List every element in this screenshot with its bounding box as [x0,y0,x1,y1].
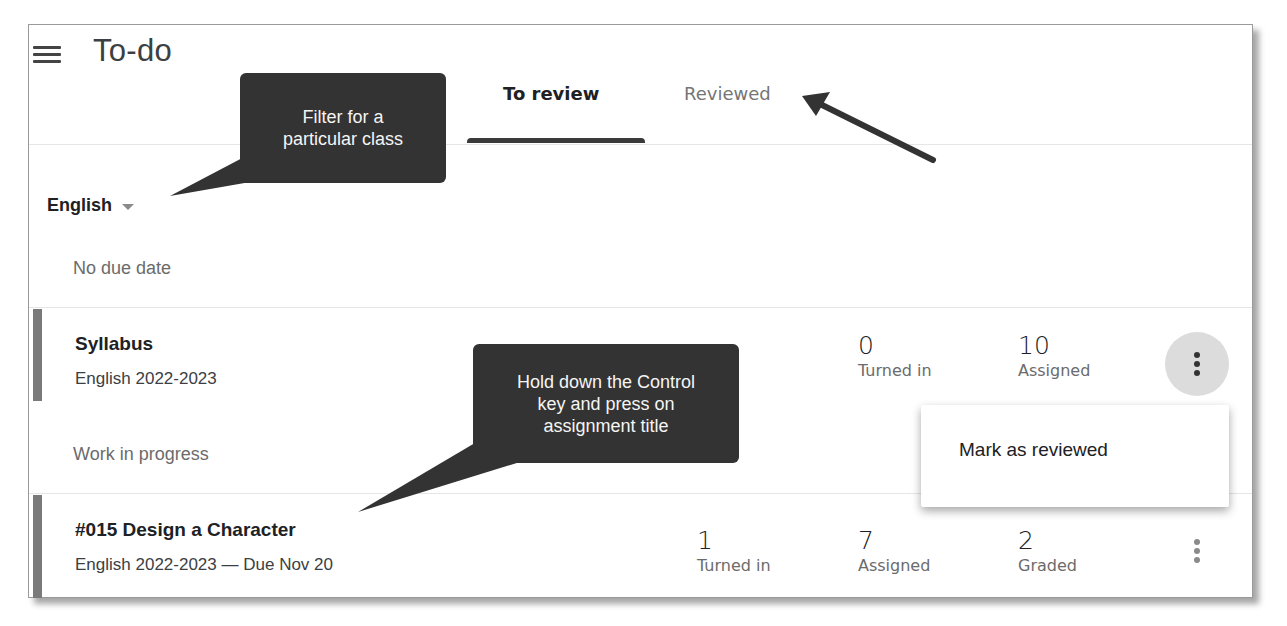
section-label-no-due-date: No due date [73,258,171,279]
assignment-row[interactable]: #015 Design a Character English 2022-202… [33,495,1252,598]
tab-reviewed[interactable]: Reviewed [684,83,771,104]
callout-text: Hold down the Control key and press on a… [517,371,695,437]
hamburger-menu-icon[interactable] [33,44,61,66]
stat-assigned: 10 Assigned [1018,333,1090,380]
stat-turned-in: 1 Turned in [697,528,771,575]
page-title: To-do [93,33,172,69]
stat-label: Assigned [1018,361,1090,380]
callout-filter-class: Filter for a particular class [240,73,446,183]
active-tab-indicator [467,138,645,143]
stat-value: 1 [697,528,771,554]
stat-turned-in: 0 Turned in [858,333,932,380]
stat-label: Graded [1018,556,1077,575]
callout-control-click: Hold down the Control key and press on a… [473,344,739,463]
stat-graded: 2 Graded [1018,528,1077,575]
stat-value: 2 [1018,528,1077,554]
stat-value: 10 [1018,333,1090,359]
header-divider [29,144,1252,145]
assignment-class: English 2022-2023 [75,369,217,389]
assignment-class-due: English 2022-2023 — Due Nov 20 [75,555,333,575]
section-divider [29,307,1252,308]
section-label-work-in-progress: Work in progress [73,444,209,465]
dropdown-caret-icon [122,204,134,210]
row-accent-bar [33,309,42,401]
assignment-title[interactable]: #015 Design a Character [75,519,296,541]
more-vert-icon [1194,352,1200,376]
todo-window: To-do To review Reviewed English No due … [28,24,1253,598]
assignment-title[interactable]: Syllabus [75,333,153,355]
stat-label: Turned in [697,556,771,575]
class-filter-label: English [47,195,112,216]
more-options-button[interactable] [1165,332,1229,396]
more-options-menu: Mark as reviewed [921,405,1229,507]
stat-label: Assigned [858,556,930,575]
stat-label: Turned in [858,361,932,380]
stat-value: 7 [858,528,930,554]
stat-assigned: 7 Assigned [858,528,930,575]
menu-item-mark-as-reviewed[interactable]: Mark as reviewed [959,439,1108,461]
more-options-button[interactable] [1165,519,1229,583]
callout-text: Filter for a particular class [283,106,403,150]
row-accent-bar [33,495,42,598]
class-filter-dropdown[interactable]: English [47,195,134,216]
more-vert-icon [1194,539,1200,563]
stat-value: 0 [858,333,932,359]
tab-to-review[interactable]: To review [503,83,599,104]
